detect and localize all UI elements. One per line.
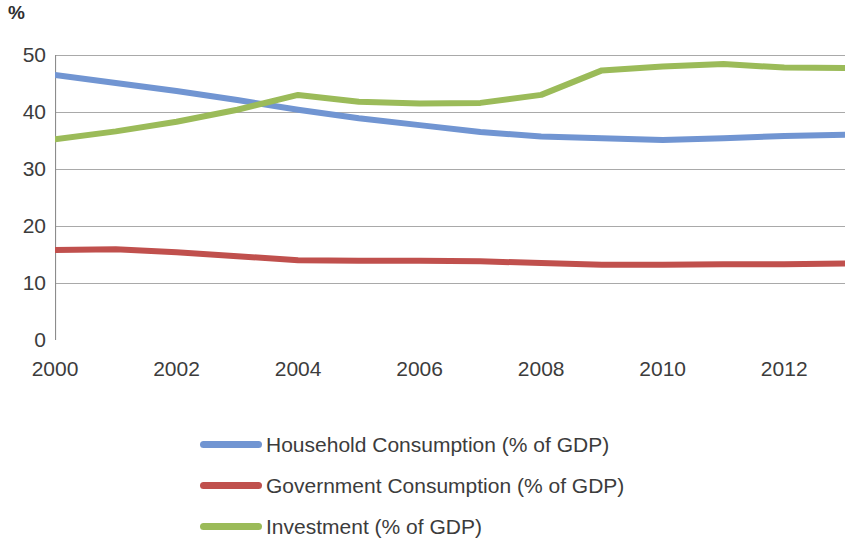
legend-item-investment[interactable]: Investment (% of GDP)	[200, 506, 820, 547]
y-axis-tick-label: 0	[0, 328, 46, 352]
line-chart-svg	[55, 55, 845, 340]
chart-legend: Household Consumption (% of GDP)Governme…	[200, 424, 820, 547]
x-axis-tick-label: 2012	[761, 357, 808, 381]
y-axis-unit-label: %	[8, 2, 25, 24]
chart-page: % 01020304050 20002002200420062008201020…	[0, 0, 864, 551]
y-axis-tick-label: 20	[0, 214, 46, 238]
legend-item-household[interactable]: Household Consumption (% of GDP)	[200, 424, 820, 465]
series-line-government	[55, 249, 845, 264]
legend-label-investment: Investment (% of GDP)	[266, 515, 482, 539]
legend-label-household: Household Consumption (% of GDP)	[266, 433, 609, 457]
y-axis-tick-label: 40	[0, 100, 46, 124]
legend-swatch-household	[200, 441, 262, 448]
y-axis-tick-label: 30	[0, 157, 46, 181]
legend-swatch-investment	[200, 523, 262, 530]
x-axis-tick-label: 2006	[396, 357, 443, 381]
y-axis-tick-label: 50	[0, 43, 46, 67]
legend-swatch-government	[200, 482, 262, 489]
series-line-household	[55, 75, 845, 140]
x-axis-tick-label: 2008	[518, 357, 565, 381]
x-axis-tick-label: 2004	[275, 357, 322, 381]
plot-area	[55, 55, 845, 340]
legend-item-government[interactable]: Government Consumption (% of GDP)	[200, 465, 820, 506]
x-axis-tick-label: 2002	[153, 357, 200, 381]
legend-label-government: Government Consumption (% of GDP)	[266, 474, 624, 498]
x-axis-tick-label: 2010	[639, 357, 686, 381]
y-axis-tick-label: 10	[0, 271, 46, 295]
x-axis-tick-label: 2000	[32, 357, 79, 381]
